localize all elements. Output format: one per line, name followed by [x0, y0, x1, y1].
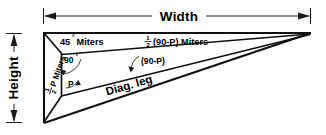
height-arrow-bottom-icon — [11, 110, 18, 122]
angle-90-minus-p-label: (90-P) — [141, 56, 165, 66]
angle-90-degree-icon: ° — [76, 53, 79, 60]
angle-p-label: P — [68, 79, 74, 89]
miter-half-90p-numerator: 1 — [146, 34, 150, 41]
angle-90-label-group: 90 ° — [64, 53, 79, 65]
miter-45-suffix: Miters — [77, 37, 104, 47]
angle-90-value: 90 — [64, 55, 74, 65]
angle-90-minus-p-arrow-icon — [128, 66, 134, 72]
miter-diagram: Width Height — [0, 0, 326, 135]
miter-45-degree-icon: ° — [72, 34, 75, 41]
miter-45-value: 45 — [60, 37, 70, 47]
miter-half-90p-denominator: 2 — [146, 41, 150, 48]
diagram-canvas: Width Height — [0, 0, 326, 135]
height-label: Height — [6, 56, 21, 100]
width-arrow-left-icon — [44, 13, 56, 20]
width-label: Width — [160, 9, 198, 24]
height-arrow-top-icon — [11, 34, 18, 46]
miter-half-90p-suffix: (90-P) Miters — [153, 37, 208, 47]
width-arrow-right-icon — [298, 13, 310, 20]
miter-45-label-group: 45 ° Miters — [60, 34, 104, 47]
miter-half-90p-label-group: 1 2 (90-P) Miters — [145, 34, 209, 48]
height-dimension: Height — [6, 34, 22, 123]
width-dimension: Width — [44, 8, 311, 24]
miter-half-p-denominator: 2 — [50, 89, 58, 95]
